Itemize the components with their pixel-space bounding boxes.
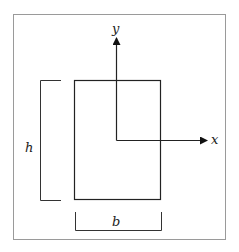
height-label: h xyxy=(25,140,33,155)
section-diagram: y x h b xyxy=(0,0,239,252)
height-dimension-bracket xyxy=(41,81,62,201)
width-label: b xyxy=(112,214,120,229)
outer-frame xyxy=(14,15,226,240)
y-axis-label: y xyxy=(111,21,120,36)
x-axis-label: x xyxy=(211,132,219,147)
